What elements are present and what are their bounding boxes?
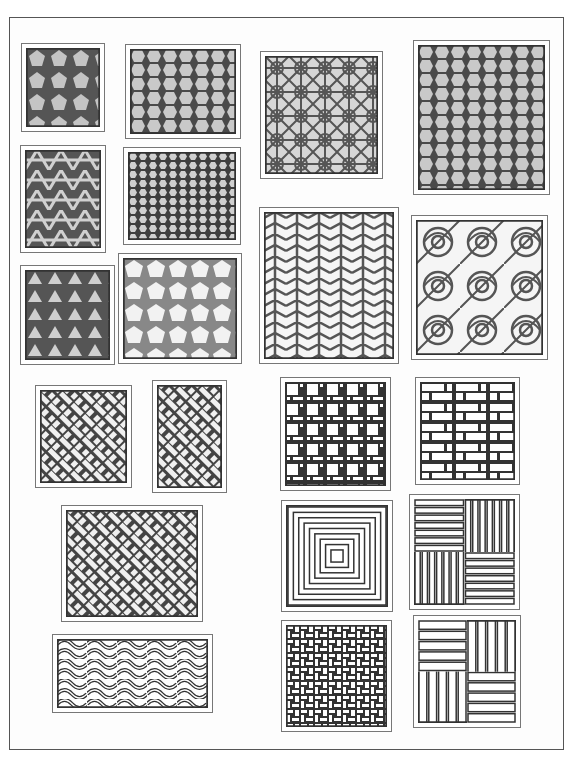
weave-pattern-icon xyxy=(40,390,127,483)
weave-pattern-icon xyxy=(157,385,222,488)
chevrons-pattern-icon xyxy=(264,212,394,359)
pattern-panel-wave-weave xyxy=(52,634,213,713)
pinwheel-pattern-icon xyxy=(414,499,515,605)
pattern-panel-chevron-star-grid xyxy=(259,207,399,364)
pattern-panel-basket-weave-small xyxy=(35,385,132,488)
pattern-panel-concentric-square-spiral xyxy=(281,500,393,612)
pattern-panel-pentagon-grid xyxy=(21,43,105,132)
bamboo-pattern-icon xyxy=(418,620,516,723)
spiral-square-pattern-icon xyxy=(286,505,388,607)
pattern-panel-brick-offset-grid xyxy=(415,377,520,485)
pattern-panel-irregular-pentagons xyxy=(118,253,242,364)
bricks-pattern-icon xyxy=(420,382,515,480)
pattern-panel-hexagon-grid-small xyxy=(123,147,241,245)
stars-pattern-icon xyxy=(265,56,378,174)
hexagons-pattern-icon xyxy=(418,45,545,190)
fret-pattern-icon xyxy=(286,625,387,727)
pattern-panel-pinwheel-lattice xyxy=(409,494,520,610)
weave-pattern-icon xyxy=(66,510,198,617)
squares-pattern-icon xyxy=(285,382,386,486)
interlace-pattern-icon xyxy=(25,150,101,248)
pattern-panel-star-of-david-grid xyxy=(20,265,115,365)
pentagons-pattern-icon xyxy=(26,48,100,127)
hexsmall-pattern-icon xyxy=(128,152,236,240)
pattern-panel-octagon-hex-grid xyxy=(413,40,550,195)
triangles-pattern-icon xyxy=(25,270,110,360)
pattern-panel-square-offset-grid xyxy=(280,377,391,491)
pattern-panel-diagonal-weave-large xyxy=(61,505,203,622)
pattern-panel-hexagon-grid-large xyxy=(125,44,241,139)
pattern-panel-interlaced-triangles xyxy=(20,145,106,253)
pentagons-pattern-icon xyxy=(123,258,237,359)
pattern-panel-spiral-rose-grid xyxy=(411,215,548,360)
pattern-panel-fret-key-grid xyxy=(281,620,392,732)
pattern-panel-diagonal-weave-tall xyxy=(152,380,227,493)
pattern-panel-bamboo-weave-grid xyxy=(413,615,521,728)
spirals-pattern-icon xyxy=(416,220,543,355)
waves-pattern-icon xyxy=(57,639,208,708)
pattern-panel-star-rosette-grid xyxy=(260,51,383,179)
hexagons-pattern-icon xyxy=(130,49,236,134)
